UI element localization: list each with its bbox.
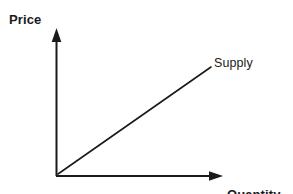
x-axis-label: Quantity supplied	[227, 156, 281, 194]
y-axis-label: Price	[9, 12, 41, 27]
x-axis-arrowhead-icon	[209, 171, 223, 181]
y-axis-arrowhead-icon	[52, 28, 62, 42]
supply-curve-figure: Price Supply Quantity supplied	[0, 0, 293, 194]
y-axis-group	[52, 28, 62, 176]
x-axis-group	[56, 171, 223, 181]
supply-line	[58, 67, 211, 174]
supply-curve-label: Supply	[214, 56, 253, 71]
x-axis-label-line-1: Quantity	[227, 187, 281, 194]
